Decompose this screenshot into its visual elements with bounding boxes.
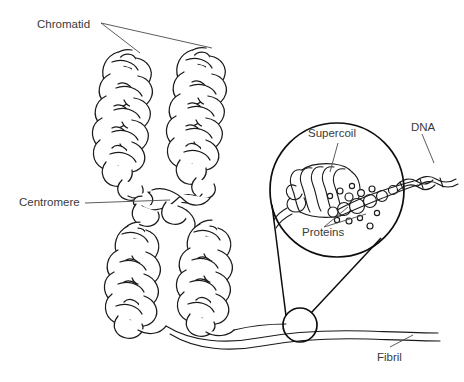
chromatid-upper-left-arm xyxy=(92,50,152,201)
magnifier-callout-lines xyxy=(272,205,381,316)
chromatid-lower-right-arm xyxy=(176,220,234,336)
chromatid-lower-left-arm xyxy=(104,222,166,338)
chromosome-diagram: Chromatid Centromere Supercoil Proteins … xyxy=(0,0,464,382)
label-proteins: Proteins xyxy=(302,226,344,238)
chromatid-upper-right-arm xyxy=(166,48,226,203)
label-dna: DNA xyxy=(411,121,436,133)
leader-fibril xyxy=(390,335,413,347)
leader-supercoil xyxy=(330,143,338,172)
label-chromatid: Chromatid xyxy=(37,18,90,30)
label-supercoil: Supercoil xyxy=(308,127,356,139)
label-fibril: Fibril xyxy=(377,351,402,363)
leader-dna xyxy=(422,134,434,163)
diagram-canvas: Chromatid Centromere Supercoil Proteins … xyxy=(0,0,464,382)
label-centromere: Centromere xyxy=(19,196,80,208)
